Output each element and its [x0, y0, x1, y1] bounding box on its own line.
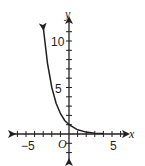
y-axis [66, 20, 72, 162]
y-axis-label: y [64, 7, 71, 21]
x-tick-label-neg5: −5 [21, 139, 35, 153]
origin-label: O [58, 137, 67, 151]
x-axis-label: x [128, 127, 135, 141]
x-tick-label-5: 5 [110, 139, 117, 153]
graph: x y O −5 5 5 10 [0, 0, 145, 166]
y-tick-label-5: 5 [55, 82, 62, 96]
y-tick-label-10: 10 [51, 35, 65, 49]
